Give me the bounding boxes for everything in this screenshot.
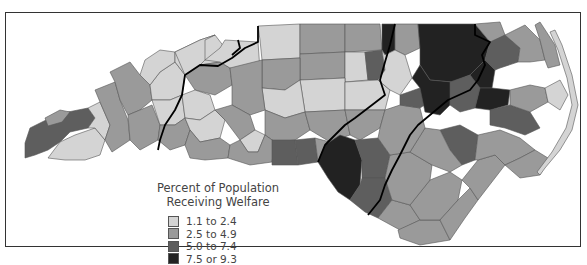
county-region-piedmont-medium-b <box>345 24 382 52</box>
county-region-sandhills-dark-b <box>295 138 318 165</box>
legend-label-4: 7.5 or 9.3 <box>186 253 237 265</box>
county-region-piedmont-light-a <box>258 24 300 60</box>
legend-item-3: 5.0 to 7.4 <box>168 240 293 253</box>
legend-swatch-3 <box>168 241 179 252</box>
legend-label-2: 2.5 to 4.9 <box>186 228 237 240</box>
map-legend: Percent of Population Receiving Welfare … <box>168 181 293 265</box>
legend-title-line2: Receiving Welfare <box>143 195 293 209</box>
county-region-piedmont-medium-a <box>300 24 345 54</box>
legend-items: 1.1 to 2.4 2.5 to 4.9 5.0 to 7.4 7.5 or … <box>168 215 293 265</box>
legend-label-3: 5.0 to 7.4 <box>186 240 237 252</box>
legend-item-4: 7.5 or 9.3 <box>168 253 293 265</box>
legend-swatch-2 <box>168 228 179 239</box>
county-region-sandhills-dark-a <box>272 140 298 165</box>
legend-swatch-4 <box>168 253 179 264</box>
legend-item-2: 2.5 to 4.9 <box>168 228 293 241</box>
legend-title: Percent of Population Receiving Welfare <box>143 181 293 209</box>
legend-title-line1: Percent of Population <box>143 181 293 195</box>
county-region-piedmont-light-b <box>345 52 368 82</box>
county-region-piedmont-light-c <box>300 78 345 112</box>
legend-label-1: 1.1 to 2.4 <box>186 215 237 227</box>
county-region-piedmont-medium-c <box>300 52 345 80</box>
legend-swatch-1 <box>168 216 179 227</box>
legend-item-1: 1.1 to 2.4 <box>168 215 293 228</box>
county-region-northeast-medium-a <box>395 24 420 55</box>
county-region-outer-banks-light <box>545 80 568 110</box>
